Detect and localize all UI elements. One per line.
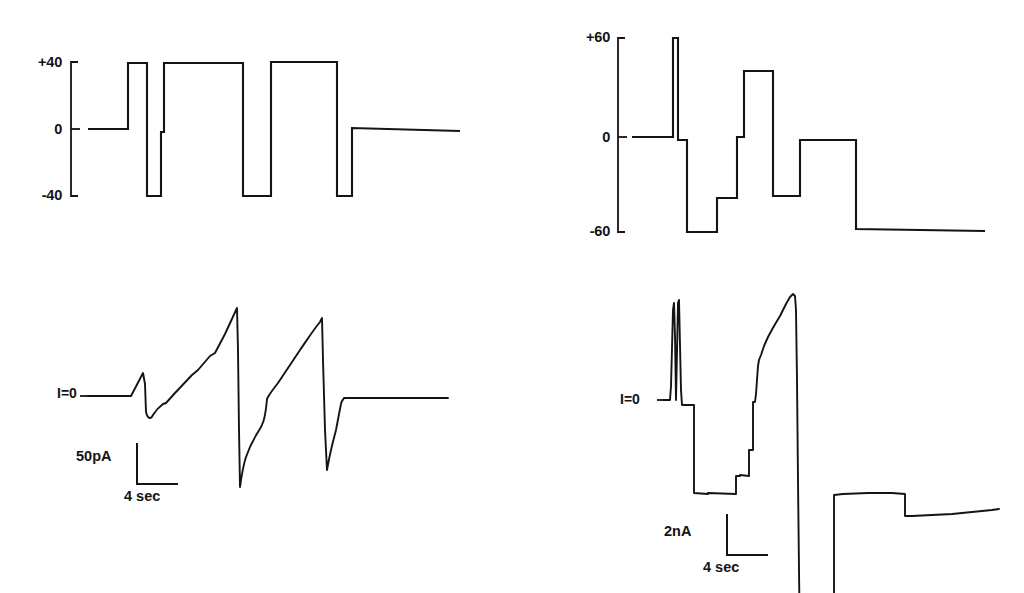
current-trace-right [663,294,999,593]
voltage-trace-right [632,38,985,232]
top-left-plot-svg [0,0,512,280]
figure-root: +40 0 -40 +60 0 -60 I=0 50pA 4 sec [0,0,1024,593]
top-right-plot-svg [512,0,1024,280]
axis-bracket-top-right [618,38,625,232]
voltage-trace-left [88,62,460,196]
scale-bar-right [727,514,768,555]
bottom-left-plot-svg [0,280,512,593]
scale-bar-left [137,443,178,484]
bottom-right-plot-svg [512,280,1024,593]
current-trace-left [88,308,448,487]
